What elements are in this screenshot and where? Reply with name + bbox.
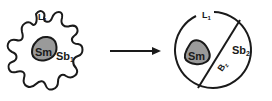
arrow-head-icon [152, 47, 161, 55]
transition-arrow [110, 47, 161, 55]
left-region-label: Sb1 [56, 50, 74, 63]
right-boundary-label: Bz [215, 60, 229, 74]
transformation-diagram: Sm Sb1 L1 Sm Sb2 L1 Bz [0, 0, 272, 101]
left-outline-label: L1 [38, 12, 48, 23]
right-outline-label: L1 [202, 10, 212, 21]
left-cell: Sm Sb1 L1 [8, 11, 83, 89]
right-region-label: Sb2 [232, 44, 250, 57]
right-nucleus-label: Sm [188, 50, 205, 62]
left-nucleus-label: Sm [35, 46, 52, 58]
right-cell: Sm Sb2 L1 Bz [175, 10, 251, 88]
